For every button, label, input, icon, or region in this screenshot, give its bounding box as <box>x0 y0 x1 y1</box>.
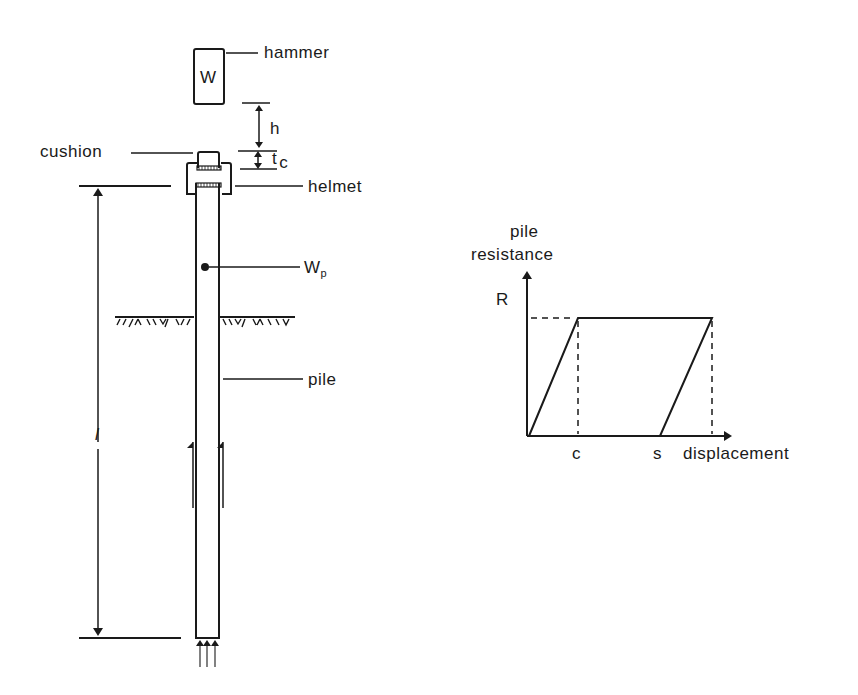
pile-weight-point <box>201 263 209 271</box>
hammer-symbol: W <box>200 68 217 87</box>
y-tick-R: R <box>496 290 509 309</box>
cushion-label: cushion <box>40 142 102 161</box>
helmet-body <box>187 163 231 194</box>
ground-hatching-right <box>223 319 289 327</box>
ground-hatching-left <box>117 319 190 327</box>
left-diagram: W hammer h tc cushion <box>40 43 362 667</box>
cushion: cushion <box>40 142 221 170</box>
hammer-label: hammer <box>264 43 329 62</box>
ground-surface <box>115 317 295 327</box>
pile: Wp pile <box>196 183 336 638</box>
helmet-label: helmet <box>308 177 362 196</box>
drop-height-label: h <box>270 119 280 138</box>
resistance-displacement-chart: pile resistance R c s displacement <box>471 222 789 463</box>
toe-resistance-arrows <box>200 643 215 667</box>
pile-length-label: l <box>95 425 100 444</box>
x-tick-c: c <box>572 444 581 463</box>
hammer: W hammer <box>194 43 329 104</box>
x-axis-label: displacement <box>683 444 789 463</box>
pile-weight-subscript: p <box>321 267 328 279</box>
pile-body <box>196 183 219 638</box>
pile-weight-label: Wp <box>304 258 327 279</box>
drop-height-dimension: h <box>242 103 280 145</box>
x-tick-s: s <box>653 444 662 463</box>
tc-subscript: c <box>279 153 288 172</box>
cushion-thickness-dimension: tc <box>238 149 288 172</box>
helmet-plate <box>196 183 221 187</box>
pile-length-dimension: l <box>79 186 181 638</box>
y-axis-label-line2: resistance <box>471 245 553 264</box>
pile-driving-figure: W hammer h tc cushion <box>0 0 858 695</box>
y-axis-label-line1: pile <box>510 222 538 241</box>
load-displacement-curve <box>529 318 712 436</box>
pile-label: pile <box>308 370 336 389</box>
